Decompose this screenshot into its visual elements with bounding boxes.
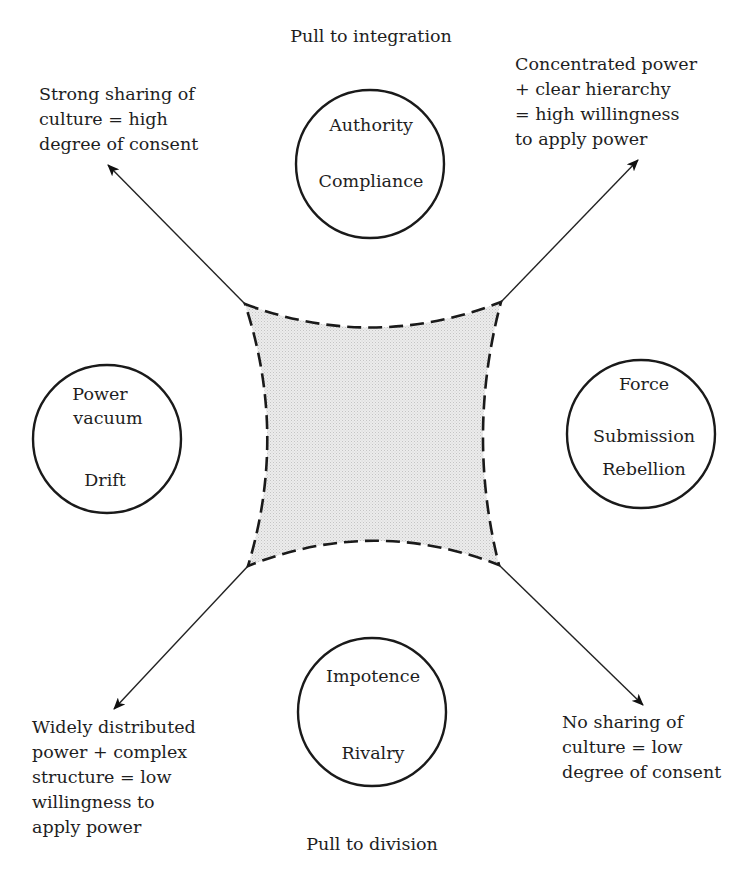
label-bottom-left-line-1: Widely distributed [32, 717, 196, 737]
label-top-left-line-1: Strong sharing of [39, 84, 196, 104]
circle-top-line-2: Compliance [319, 171, 424, 191]
circle-power-vacuum-drift: Power vacuum Drift [33, 365, 181, 513]
circle-right-line-1: Force [619, 374, 669, 394]
circle-bottom-line-1: Impotence [326, 666, 420, 686]
arrow-top-right [501, 160, 638, 302]
circle-authority-compliance: Authority Compliance [296, 90, 444, 238]
label-top-left-line-2: culture = high [39, 109, 168, 129]
circle-bottom-line-2: Rivalry [342, 743, 405, 763]
circle-impotence-rivalry: Impotence Rivalry [298, 638, 446, 786]
label-bottom-left-line-2: power + complex [32, 742, 187, 762]
circle-left-line-1: Power [72, 384, 128, 404]
label-bottom-right-line-1: No sharing of [562, 712, 685, 732]
label-bottom-right-line-2: culture = low [562, 737, 683, 757]
label-top-right-line-4: to apply power [515, 129, 648, 149]
circle-force-submission-rebellion: Force Submission Rebellion [567, 360, 715, 508]
arrow-bottom-right [499, 565, 643, 705]
pole-label-division: Pull to division [306, 834, 438, 854]
label-bottom-left-line-4: willingness to [32, 792, 155, 812]
label-top-right-line-3: = high willingness [515, 104, 680, 124]
label-top-right: Concentrated power + clear hierarchy = h… [515, 54, 698, 149]
pole-label-integration: Pull to integration [290, 26, 452, 46]
label-bottom-right-line-3: degree of consent [562, 762, 721, 782]
circle-right-line-3: Rebellion [602, 459, 686, 479]
circle-left-line-3: Drift [84, 470, 126, 490]
central-tension-region [245, 302, 501, 566]
arrow-top-left [108, 165, 245, 304]
circle-right-line-2: Submission [593, 426, 695, 446]
label-bottom-left-line-3: structure = low [32, 767, 171, 787]
tension-diagram: Pull to integration Pull to division Aut… [0, 0, 753, 877]
label-bottom-left: Widely distributed power + complex struc… [32, 717, 196, 837]
label-top-right-line-1: Concentrated power [515, 54, 698, 74]
circle-top-line-1: Authority [328, 115, 413, 135]
label-top-left-line-3: degree of consent [39, 134, 198, 154]
label-bottom-right: No sharing of culture = low degree of co… [562, 712, 721, 782]
label-bottom-left-line-5: apply power [32, 817, 142, 837]
arrow-bottom-left [114, 566, 248, 709]
label-top-left: Strong sharing of culture = high degree … [39, 84, 198, 154]
circle-left-line-2: vacuum [72, 408, 143, 428]
label-top-right-line-2: + clear hierarchy [515, 79, 671, 99]
